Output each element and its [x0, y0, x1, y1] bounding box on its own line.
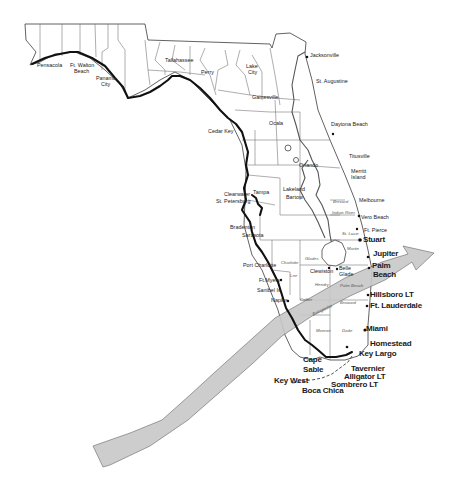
label-tampa: Tampa	[253, 190, 269, 195]
lake-small-1	[285, 145, 291, 151]
label-st-augustine: St. Augustine	[316, 79, 348, 84]
label-hillsboro: Hillsboro LT	[370, 291, 414, 299]
label-ft-walton-2: Beach	[74, 69, 89, 74]
county-st-lucie: St. Lucie	[342, 232, 359, 236]
label-st-petersburg: St. Petersburg	[216, 199, 250, 204]
label-palm-1: Palm	[372, 262, 390, 270]
label-lakeland: Lakeland	[283, 187, 305, 192]
county-brevard: Brevard	[333, 200, 348, 204]
label-sanibel: Sanibel Is.	[257, 288, 282, 293]
label-titusville: Titusville	[349, 154, 370, 159]
label-clearwater: Clearwater	[224, 192, 250, 197]
county-indian-river: Indian River	[332, 211, 355, 215]
label-key-largo: Key Largo	[359, 350, 396, 358]
label-tallahassee: Tallahassee	[165, 58, 193, 63]
label-panama-2: City	[101, 82, 110, 87]
label-ft-lauderdale: Ft. Lauderdale	[370, 302, 422, 310]
label-orlando: Orlando	[299, 163, 318, 168]
county-martin: Martin	[347, 247, 359, 251]
label-port-charlotte: Port Charlotte	[243, 263, 276, 268]
label-stuart: Stuart	[363, 236, 385, 244]
county-collier: Collier	[300, 298, 312, 302]
county-glades: Glades	[305, 257, 319, 261]
county-monroe: Monroe	[316, 329, 331, 333]
florida-map	[0, 0, 458, 488]
label-clewiston: Clewiston	[310, 269, 333, 274]
label-sarasota: Sarasota	[242, 233, 264, 238]
county-palm-beach: Palm Beach	[340, 284, 363, 288]
label-ft-myers: Ft.Myers	[259, 278, 280, 283]
label-cedar-key: Cedar Key	[208, 129, 233, 134]
label-boca-chica: Boca Chica	[302, 387, 344, 395]
county-dade: Dade	[342, 329, 352, 333]
tampa-bay-coast	[252, 195, 262, 215]
label-bradenton: Bradenton	[230, 225, 255, 230]
county-lee: Lee	[290, 274, 297, 278]
label-merritt-2: Island	[351, 175, 365, 180]
label-vero: Vero Beach	[361, 215, 389, 220]
label-lake-city-2: City	[248, 70, 257, 75]
label-palm-2: Beach	[373, 271, 396, 279]
label-jacksonville: Jacksonville	[310, 53, 339, 58]
county-broward: Broward	[340, 301, 356, 305]
county-charlotte: Charlotte	[281, 261, 298, 265]
county-hendry: Hendry	[315, 283, 329, 287]
kissimmee-river	[300, 160, 325, 238]
label-ft-pierce: Ft. Pierce	[364, 228, 387, 233]
label-perry: Perry	[201, 70, 214, 75]
label-cape-1: Cape	[303, 356, 322, 364]
label-pensacola: Pensacola	[37, 63, 62, 68]
lake-okeechobee	[322, 240, 346, 266]
label-cape-2: Sable	[303, 366, 323, 374]
label-naples: Naples	[271, 298, 288, 303]
label-jupiter: Jupiter	[373, 250, 398, 258]
label-key-west: Key West	[274, 377, 308, 385]
label-daytona: Daytona Beach	[331, 122, 368, 127]
label-gainesville: Gainesville	[252, 95, 278, 100]
label-ocala: Ocala	[269, 121, 283, 126]
label-bartow: Bartow	[286, 195, 303, 200]
label-miami: Miami	[366, 325, 388, 333]
label-melbourne: Melbourne	[359, 198, 384, 203]
label-homestead: Homestead	[370, 340, 411, 348]
label-belle-2: Glade	[339, 272, 353, 277]
lake-small-2	[294, 158, 299, 163]
